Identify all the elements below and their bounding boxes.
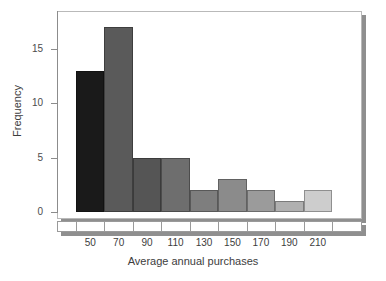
x-axis-tick-label: 50 xyxy=(75,237,105,248)
histogram-figure: 051015 507090110130150170190210 Average … xyxy=(0,0,386,281)
x-axis-tick xyxy=(76,221,77,232)
histogram-bar xyxy=(161,158,189,212)
x-axis-tick xyxy=(218,221,219,232)
histogram-bar xyxy=(247,190,275,212)
histogram-bar xyxy=(304,190,332,212)
x-axis-tick-label: 210 xyxy=(303,237,333,248)
x-axis-tick xyxy=(275,221,276,232)
x-axis-tick-label: 170 xyxy=(246,237,276,248)
y-axis-tick xyxy=(51,103,57,104)
y-axis-tick xyxy=(51,158,57,159)
x-axis-tick xyxy=(190,221,191,232)
x-axis-tick-label: 90 xyxy=(132,237,162,248)
y-axis-tick xyxy=(51,212,57,213)
x-axis-tick-label: 110 xyxy=(161,237,191,248)
x-axis-tick xyxy=(133,221,134,232)
x-axis-tick xyxy=(332,221,333,232)
x-axis-tick-label: 190 xyxy=(274,237,304,248)
x-axis-tick xyxy=(304,221,305,232)
x-axis-tick-label: 150 xyxy=(217,237,247,248)
histogram-bar xyxy=(76,71,104,212)
y-axis-tick-label: 0 xyxy=(17,207,43,217)
histogram-bar xyxy=(218,179,246,212)
x-axis-tick-label: 130 xyxy=(189,237,219,248)
histogram-bar xyxy=(104,27,132,212)
x-axis-tick xyxy=(247,221,248,232)
y-axis-spine xyxy=(57,11,58,213)
histogram-bar xyxy=(275,201,303,212)
x-axis-title: Average annual purchases xyxy=(0,255,386,267)
y-axis-title: Frequency xyxy=(11,51,23,171)
y-axis-tick xyxy=(51,49,57,50)
histogram-bar xyxy=(133,158,161,212)
histogram-bar xyxy=(190,190,218,212)
x-axis-tick xyxy=(161,221,162,232)
x-axis-tick xyxy=(104,221,105,232)
x-axis-tick-label: 70 xyxy=(104,237,134,248)
